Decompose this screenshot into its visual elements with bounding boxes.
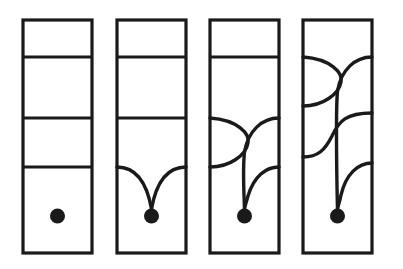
figure-root: [0, 0, 403, 269]
panel-4-basepoint-dot: [330, 209, 345, 224]
panel-2-basepoint-dot: [144, 209, 159, 224]
panel-2-right-arc: [152, 167, 187, 209]
panel-3-right-arc: [245, 167, 280, 209]
panel-2: [117, 20, 186, 253]
panel-4: [303, 20, 372, 253]
panel-3: [210, 20, 279, 253]
tangle-diagram-svg: [0, 0, 403, 269]
panel-1: [23, 20, 92, 253]
panel-3-basepoint-dot: [237, 209, 252, 224]
panel-2-left-arc: [117, 167, 152, 209]
panel-1-basepoint-dot: [50, 209, 65, 224]
panel-4-lower-right-arc: [338, 163, 373, 209]
panel-4-upper-crossing-strand: [336, 57, 372, 209]
